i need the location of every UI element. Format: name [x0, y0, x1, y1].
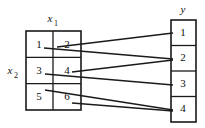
domain-cell-6: 6	[64, 90, 70, 102]
label-x2-subscript: 2	[14, 71, 18, 80]
domain-cell-4: 4	[64, 64, 70, 76]
label-x1-subscript: 1	[54, 19, 58, 28]
domain-cell-5: 5	[36, 90, 42, 102]
codomain-cell-1: 1	[180, 26, 186, 38]
codomain-cell-3: 3	[180, 77, 186, 89]
label-y-var: y	[180, 3, 186, 15]
codomain-cell-2: 2	[180, 51, 186, 63]
label-x2-var: x	[7, 64, 13, 76]
connection-4-to-2	[72, 60, 173, 72]
mapping-diagram-svg: 1 2 3 4 5 6 1 2 3 4 x 1 x 2 y	[0, 0, 205, 128]
diagram-canvas: 1 2 3 4 5 6 1 2 3 4 x 1 x 2 y	[0, 0, 205, 128]
connection-2-to-1	[57, 33, 173, 47]
label-x1-var: x	[47, 12, 53, 24]
domain-cell-1: 1	[36, 38, 42, 50]
codomain-cell-4: 4	[180, 102, 186, 114]
domain-cell-3: 3	[36, 64, 42, 76]
domain-cell-2: 2	[64, 38, 70, 50]
